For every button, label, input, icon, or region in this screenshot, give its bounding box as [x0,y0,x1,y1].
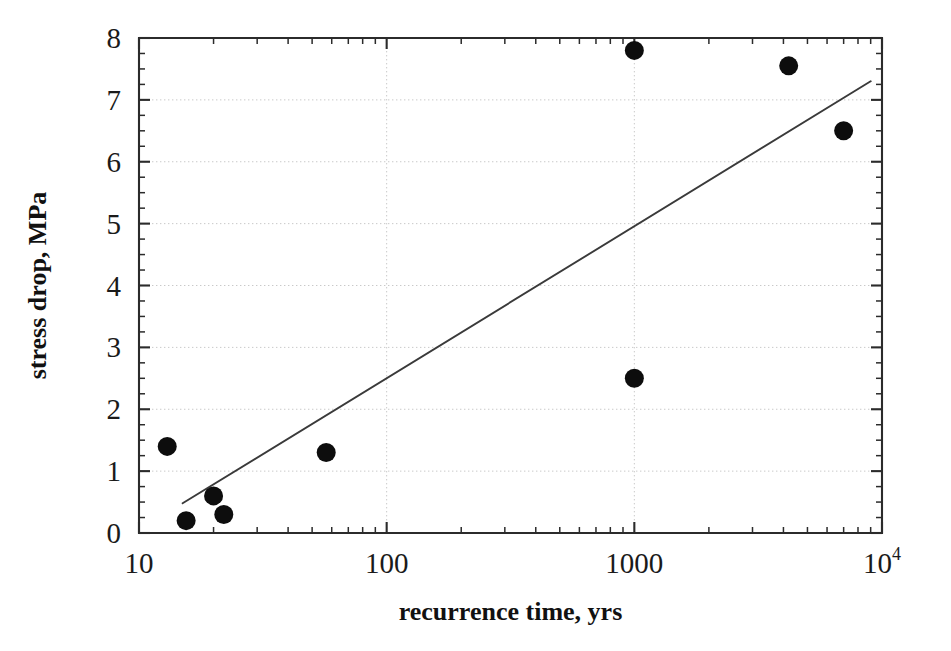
data-point [214,505,233,524]
y-tick-label: 0 [107,517,122,549]
y-axis-minor-ticks [139,53,882,517]
chart-page: 012345678 101001000104 recurrence time, … [0,0,951,651]
plot-frame [139,38,882,533]
gridlines-group [140,39,881,532]
y-axis-title: stress drop, MPa [23,192,52,380]
plot-frame-border [139,38,882,533]
y-tick-label: 3 [107,331,122,363]
regression-line [183,81,871,503]
x-tick-label: 10 [125,547,154,579]
data-point [317,443,336,462]
trend-line [183,81,871,503]
x-tick-label: 100 [365,547,409,579]
x-tick-label: 1000 [605,547,663,579]
y-axis-tick-labels: 012345678 [107,22,122,549]
x-tick-label: 104 [863,544,901,579]
y-axis-major-ticks [139,38,882,533]
y-tick-label: 4 [107,270,122,302]
x-axis-tick-labels: 101001000104 [125,544,902,579]
y-tick-label: 8 [107,22,122,54]
data-point [625,41,644,60]
data-point [158,437,177,456]
data-point [779,56,798,75]
y-tick-label: 6 [107,146,122,178]
x-axis-major-ticks [139,38,882,533]
y-tick-label: 2 [107,393,122,425]
data-point [177,511,196,530]
y-tick-label: 1 [107,455,122,487]
x-axis-title: recurrence time, yrs [399,597,623,626]
y-tick-label: 7 [107,84,122,116]
scatter-chart: 012345678 101001000104 recurrence time, … [0,0,951,651]
data-point [834,121,853,140]
data-point [625,369,644,388]
data-point [204,486,223,505]
y-tick-label: 5 [107,208,122,240]
